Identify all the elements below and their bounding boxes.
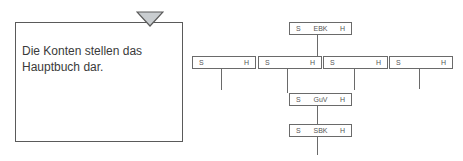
account-credit-label: H	[376, 57, 381, 68]
account-guv: S GuV H	[289, 93, 352, 106]
account-credit-label: H	[340, 125, 345, 136]
account-debit-label: S	[199, 57, 204, 68]
account-sbk: S SBK H	[289, 124, 352, 137]
account-debit-label: S	[396, 57, 401, 68]
account-row-2: S H	[258, 56, 322, 69]
account-credit-label: H	[340, 23, 345, 34]
connector-guv	[317, 105, 318, 124]
account-debit-label: S	[265, 57, 270, 68]
account-debit-label: S	[330, 57, 335, 68]
account-row-3: S H	[323, 56, 388, 69]
note-box	[15, 22, 183, 142]
note-text: Die Konten stellen das Hauptbuch dar.	[22, 43, 162, 75]
account-credit-label: H	[244, 57, 249, 68]
connector-ebk	[317, 34, 318, 56]
connector-row-3	[354, 69, 355, 90]
account-credit-label: H	[340, 94, 345, 105]
account-credit-label: H	[310, 57, 315, 68]
account-ebk: S EBK H	[289, 22, 352, 35]
note-text-line-2: Hauptbuch dar.	[22, 59, 162, 75]
connector-row-2	[287, 69, 288, 93]
connector-row-4	[419, 69, 420, 89]
account-row-1: S H	[192, 56, 256, 69]
note-text-line-1: Die Konten stellen das	[22, 43, 162, 59]
account-row-4: S H	[389, 56, 453, 69]
connector-row-1	[221, 69, 222, 90]
connector-sbk	[317, 137, 318, 155]
account-credit-label: H	[441, 57, 446, 68]
triangle-down-icon	[136, 11, 164, 27]
